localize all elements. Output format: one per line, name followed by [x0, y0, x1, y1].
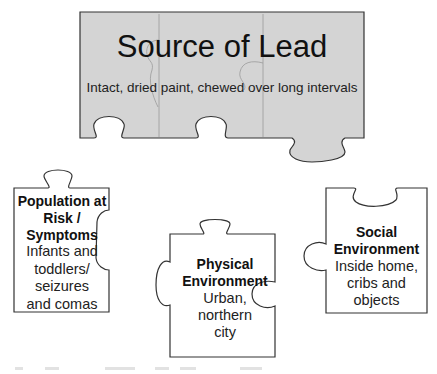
population-text: Population at Risk / Symptoms Infants an… [14, 193, 110, 313]
source-subtitle: Intact, dried paint, chewed over long in… [80, 80, 364, 96]
population-heading-1: Population at [14, 193, 110, 210]
population-body-4: and comas [14, 296, 110, 313]
physical-heading-1: Physical [170, 256, 280, 273]
physical-body-3: city [170, 324, 280, 341]
social-text: Social Environment Inside home, cribs an… [326, 224, 427, 310]
physical-text: Physical Environment Urban, northern cit… [170, 256, 280, 342]
physical-heading-2: Environment [170, 273, 280, 290]
population-body-2: toddlers/ [14, 261, 110, 278]
cutoff-caption [0, 364, 437, 374]
social-body-2: cribs and [326, 275, 427, 292]
source-title: Source of Lead [80, 28, 364, 65]
social-heading-1: Social [326, 224, 427, 241]
social-heading-2: Environment [326, 241, 427, 258]
population-heading-3: Symptoms [14, 227, 110, 244]
social-body-1: Inside home, [326, 258, 427, 275]
physical-body-1: Urban, [170, 290, 280, 307]
population-heading-2: Risk / [14, 210, 110, 227]
social-body-3: objects [326, 292, 427, 309]
population-body-3: seizures [14, 278, 110, 295]
physical-body-2: northern [170, 307, 280, 324]
population-body-1: Infants and [14, 243, 110, 260]
